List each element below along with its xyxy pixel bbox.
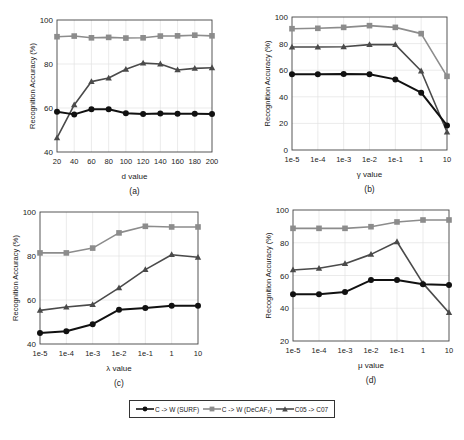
data-point xyxy=(341,25,347,31)
chart-caption: (c) xyxy=(114,378,124,388)
y-tick-label: 0 xyxy=(284,146,289,155)
legend: C -> W (SURF) C -> W (DeCAF₇) C05 -> C07 xyxy=(129,400,335,418)
data-point xyxy=(444,74,450,80)
y-tick-label: 60 xyxy=(280,272,289,281)
y-tick-label: 40 xyxy=(27,340,36,349)
data-point xyxy=(316,291,322,297)
data-point xyxy=(290,226,296,232)
x-tick-label: 1e-1 xyxy=(389,346,404,355)
x-tick-label: 100 xyxy=(120,157,133,166)
series-triangle xyxy=(54,60,215,141)
x-tick-label: 1e-3 xyxy=(336,155,351,164)
x-tick-label: 1e-3 xyxy=(85,349,100,358)
data-point xyxy=(140,111,146,117)
data-point xyxy=(368,277,374,283)
data-point xyxy=(420,217,426,223)
data-point xyxy=(446,282,452,288)
x-tick-label: 1e-5 xyxy=(32,349,47,358)
x-tick-label: 1e-4 xyxy=(310,155,325,164)
data-point xyxy=(393,25,399,31)
x-tick-label: 1 xyxy=(170,349,174,358)
data-point xyxy=(142,305,148,311)
data-point xyxy=(54,109,60,115)
chart-c: 4060801001e-51e-41e-31e-21e-1110λ valueR… xyxy=(11,208,202,388)
data-point xyxy=(175,111,181,117)
data-point xyxy=(169,224,175,230)
x-tick-label: 1e-5 xyxy=(285,346,300,355)
data-point xyxy=(195,303,201,309)
x-tick-label: 1e-2 xyxy=(362,155,377,164)
x-tick-label: 1 xyxy=(419,155,423,164)
x-tick-label: 1e-4 xyxy=(59,349,74,358)
x-axis-label: μ value xyxy=(358,361,385,370)
data-point xyxy=(316,226,322,232)
data-point xyxy=(289,26,295,32)
data-point xyxy=(123,110,129,116)
data-point xyxy=(444,122,450,128)
legend-item-decaf: C -> W (DeCAF₇) xyxy=(203,406,272,413)
data-point xyxy=(394,277,400,283)
data-point xyxy=(169,303,175,309)
data-point xyxy=(209,111,215,117)
data-point xyxy=(158,33,164,39)
data-point xyxy=(315,26,321,32)
data-point xyxy=(140,35,146,41)
y-tick-label: 60 xyxy=(27,296,36,305)
x-tick-label: 10 xyxy=(194,349,202,358)
data-point xyxy=(37,250,43,256)
data-point xyxy=(418,90,424,96)
x-tick-label: 1 xyxy=(421,346,425,355)
chart-caption: (b) xyxy=(364,184,375,194)
legend-label-surf: C -> W (SURF) xyxy=(155,406,199,413)
data-point xyxy=(192,111,198,117)
chart-caption: (d) xyxy=(366,375,377,385)
x-tick-label: 10 xyxy=(445,346,453,355)
x-tick-label: 1e-5 xyxy=(284,155,299,164)
data-point xyxy=(209,33,215,39)
data-point xyxy=(418,31,424,37)
data-point xyxy=(342,289,348,295)
legend-item-c05-c07: C05 -> C07 xyxy=(276,406,328,413)
data-point xyxy=(54,34,60,40)
data-point xyxy=(106,106,112,112)
y-tick-label: 100 xyxy=(23,208,37,217)
legend-label-c05-c07: C05 -> C07 xyxy=(295,406,328,413)
y-tick-label: 80 xyxy=(44,60,53,69)
x-tick-label: 200 xyxy=(206,157,219,166)
y-tick-label: 40 xyxy=(279,93,288,102)
x-tick-label: 140 xyxy=(154,157,167,166)
data-point xyxy=(342,226,348,232)
data-point xyxy=(315,71,321,77)
data-point xyxy=(116,285,122,291)
data-point xyxy=(64,250,70,256)
x-tick-label: 60 xyxy=(87,157,95,166)
y-tick-label: 80 xyxy=(279,40,288,49)
data-point xyxy=(367,23,373,29)
data-point xyxy=(444,129,450,135)
y-tick-label: 40 xyxy=(280,304,289,313)
y-tick-label: 80 xyxy=(280,239,289,248)
chart-caption: (a) xyxy=(129,186,140,196)
circle-marker-icon xyxy=(136,406,154,412)
legend-item-surf: C -> W (SURF) xyxy=(136,406,199,413)
y-tick-label: 80 xyxy=(27,252,36,261)
data-point xyxy=(123,35,129,41)
data-point xyxy=(157,111,163,117)
data-point xyxy=(88,106,94,112)
data-point xyxy=(420,281,426,287)
y-tick-label: 100 xyxy=(40,16,54,25)
square-marker-icon xyxy=(203,406,221,412)
data-point xyxy=(341,71,347,77)
data-point xyxy=(63,328,69,334)
data-point xyxy=(394,219,400,225)
data-point xyxy=(367,71,373,77)
y-tick-label: 60 xyxy=(44,104,53,113)
x-tick-label: 1e-2 xyxy=(363,346,378,355)
y-tick-label: 100 xyxy=(276,206,290,215)
data-point xyxy=(392,76,398,82)
data-point xyxy=(368,224,374,230)
x-tick-label: 20 xyxy=(53,157,61,166)
data-point xyxy=(116,307,122,313)
plot-frame xyxy=(57,20,212,152)
legend-label-decaf: C -> W (DeCAF₇) xyxy=(222,406,272,413)
